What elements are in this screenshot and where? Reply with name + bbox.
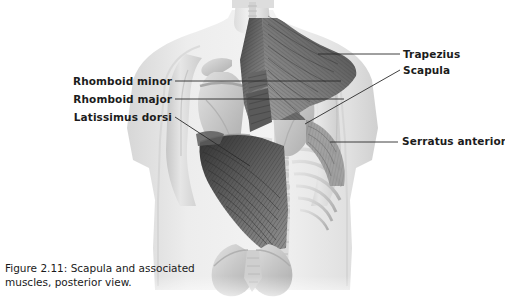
- figure-caption-line-1: Figure 2.11: Scapula and associated: [5, 262, 235, 276]
- label-latissimus-dorsi: Latissimus dorsi: [0, 112, 172, 123]
- figure-caption-line-2: muscles, posterior view.: [5, 276, 235, 290]
- label-rhomboid-minor: Rhomboid minor: [0, 76, 172, 87]
- anatomy-svg: [0, 0, 505, 306]
- label-serratus-anterior: Serratus anterior: [402, 136, 505, 147]
- label-scapula: Scapula: [403, 65, 450, 76]
- label-trapezius: Trapezius: [403, 49, 460, 60]
- figure-page: Rhomboid minor Rhomboid major Latissimus…: [0, 0, 505, 306]
- figure-caption: Figure 2.11: Scapula and associated musc…: [5, 262, 235, 289]
- label-rhomboid-major: Rhomboid major: [0, 94, 172, 105]
- anatomy-illustration: Rhomboid minor Rhomboid major Latissimus…: [0, 0, 505, 306]
